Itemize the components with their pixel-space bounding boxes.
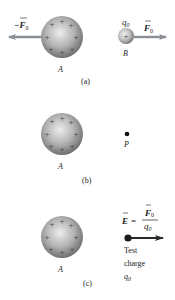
test-charge-label-line1: Test — [124, 246, 138, 255]
panel-a: −F0 A + q0 F0 B (a) — [9, 16, 166, 86]
test-charge-label-line2: charge — [124, 259, 146, 268]
panel-c: A (c) E = F0 q0 Test charge q0 — [41, 205, 163, 288]
fraction-denominator: q0 — [144, 221, 152, 232]
caption-b: (b) — [82, 176, 92, 185]
plus-charge-icon: + — [124, 32, 129, 41]
charged-sphere-a — [41, 16, 83, 58]
field-equation: E = F0 q0 — [121, 205, 158, 232]
test-charge-label-q0: q0 — [124, 272, 131, 282]
test-charge-b: + — [118, 28, 134, 44]
force-left-label: −F0 — [14, 20, 28, 31]
sphere-label-a: A — [57, 265, 63, 274]
sphere-label-a: A — [57, 65, 63, 74]
equals-sign: = — [131, 216, 136, 226]
electric-field-diagram: + + + + + + + + −F0 A + q0 F0 — [0, 0, 175, 300]
force-right-label: F0 — [143, 23, 153, 34]
charged-sphere-a — [41, 216, 83, 258]
point-p-dot — [125, 132, 130, 137]
sphere-label-a: A — [57, 162, 63, 171]
fraction-numerator: F0 — [144, 208, 154, 218]
panel-b: A P (b) — [41, 113, 129, 185]
caption-a: (a) — [81, 77, 90, 86]
point-label-p: P — [123, 140, 129, 149]
field-symbol-e: E — [121, 216, 128, 226]
charge-label-q0: q0 — [122, 17, 130, 28]
test-charge-label-b: B — [123, 49, 128, 58]
test-charge-dot — [124, 234, 131, 241]
charged-sphere-a — [41, 113, 83, 155]
caption-c: (c) — [83, 279, 92, 288]
